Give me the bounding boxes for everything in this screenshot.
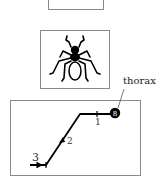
trajectory-drawing: 8 bbox=[0, 0, 165, 186]
step-label-1: 1 bbox=[95, 118, 101, 127]
svg-text:8: 8 bbox=[113, 110, 117, 118]
step-label-3: 3 bbox=[32, 152, 39, 163]
thorax-leader-line bbox=[118, 89, 124, 108]
step-label-2: 2 bbox=[67, 137, 73, 146]
thorax-label: thorax bbox=[123, 76, 156, 86]
thorax-marker-icon: 8 bbox=[110, 108, 120, 118]
